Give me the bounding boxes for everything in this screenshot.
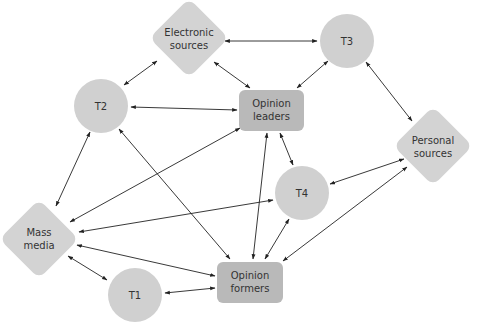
node-t1: T1	[108, 268, 162, 322]
edge-t2-leaders	[131, 107, 237, 110]
diamond-shape	[393, 106, 472, 185]
node-label: formers	[231, 283, 270, 294]
node-label: sources	[414, 148, 452, 159]
node-label: T3	[340, 36, 353, 47]
node-mass-media: Mass media	[0, 199, 79, 278]
node-personal-sources: Personal sources	[393, 106, 472, 185]
node-label: leaders	[253, 111, 290, 122]
node-label: Mass	[26, 227, 51, 238]
node-label: Electronic	[164, 27, 213, 38]
node-label: T4	[295, 188, 308, 199]
edge-electronic-t2	[124, 61, 157, 85]
edge-electronic-leaders	[214, 62, 250, 88]
node-opinion-leaders: Opinion leaders	[239, 90, 304, 131]
edges	[56, 41, 412, 293]
node-electronic-sources: Electronic sources	[149, 0, 228, 78]
edge-t4-personal	[330, 159, 404, 184]
edge-t4-formers	[265, 219, 289, 259]
node-label: Opinion	[231, 270, 270, 281]
node-label: Personal	[412, 135, 455, 146]
node-label: T1	[128, 290, 141, 301]
edge-leaders-t4	[280, 133, 293, 165]
node-t3: T3	[320, 14, 374, 68]
edge-mass-t1	[68, 256, 107, 280]
edge-t3-personal	[366, 62, 412, 121]
edge-leaders-mass	[70, 128, 240, 222]
node-opinion-formers: Opinion formers	[217, 262, 283, 303]
diamond-shape	[0, 199, 79, 278]
node-t4: T4	[275, 166, 329, 220]
edge-t4-mass	[79, 200, 273, 232]
node-label: Opinion	[252, 98, 291, 109]
node-label: media	[23, 240, 54, 251]
edge-t3-leaders	[297, 61, 328, 88]
node-label: T2	[94, 101, 107, 112]
node-label: sources	[170, 40, 208, 51]
node-t2: T2	[74, 79, 128, 133]
communication-network-diagram: Electronic sources T3 T2 Opinion leaders…	[0, 0, 482, 334]
edge-leaders-formers	[253, 133, 267, 259]
edge-t2-mass	[56, 132, 90, 206]
edge-t2-formers	[119, 129, 230, 259]
diamond-shape	[149, 0, 228, 78]
edge-t1-formers	[165, 288, 215, 293]
